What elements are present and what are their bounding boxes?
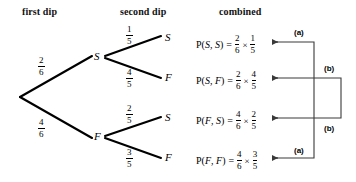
combined-fraction-second: 1 5 <box>250 34 255 55</box>
branch-F-to-FS <box>105 117 161 136</box>
combined-fraction-second: 4 5 <box>252 70 257 91</box>
node-label-first-S: S <box>94 51 100 62</box>
fraction-denominator: 5 <box>252 122 257 131</box>
fraction-denominator: 5 <box>126 80 133 89</box>
fraction-numerator: 2 <box>252 110 257 119</box>
node-label-first-F: F <box>94 131 101 142</box>
fraction-numerator: 1 <box>250 34 255 43</box>
combined-expression-ss: P(S, S) = 2 6 × 1 5 <box>196 34 255 55</box>
p-prefix: P( <box>196 115 205 126</box>
fraction-numerator: 2 <box>126 104 133 113</box>
annotation-bracket-a <box>272 42 314 158</box>
annotation-bracket-b <box>272 78 341 118</box>
probability-notation: P(S, F) <box>196 75 224 86</box>
combined-expression-ff: P(F, F) = 4 6 × 3 5 <box>196 150 257 171</box>
node-label-second-FS: S <box>165 112 171 123</box>
p-prefix: P( <box>196 75 205 86</box>
fraction-denominator: 5 <box>252 82 257 91</box>
branch-S-to-SF <box>105 58 161 78</box>
p-prefix: P( <box>196 155 205 166</box>
probability-tree-diagram: first dip second dip combined <box>0 0 356 182</box>
combined-expression-sf: P(S, F) = 2 6 × 4 5 <box>196 70 256 91</box>
fraction-denominator: 5 <box>250 46 255 55</box>
annotation-label-b-top: (b) <box>324 64 334 73</box>
branch-prob-second-SS: 1 5 <box>126 25 133 46</box>
p-prefix: P( <box>196 39 205 50</box>
annotation-label-a-top: (a) <box>294 28 304 37</box>
node-label-second-SS: S <box>165 32 171 43</box>
equals-sign: = <box>223 39 235 50</box>
annotation-label-b-bottom: (b) <box>324 124 334 133</box>
branch-prob-second-SF: 4 5 <box>126 68 133 89</box>
fraction-numerator: 1 <box>126 25 133 34</box>
fraction-numerator: 3 <box>126 148 133 157</box>
branch-S-to-SS <box>105 36 161 56</box>
branch-root-to-F <box>20 97 92 138</box>
fraction-numerator: 2 <box>38 56 45 65</box>
combined-expression-fs: P(F, S) = 4 6 × 2 5 <box>196 110 256 131</box>
probability-notation: P(F, S) <box>196 115 224 126</box>
annotation-label-a-bottom: (a) <box>294 146 304 155</box>
fraction-denominator: 5 <box>126 160 133 169</box>
branch-root-to-S <box>20 56 92 97</box>
multiply-sign: × <box>242 156 253 166</box>
fraction-numerator: 4 <box>252 70 257 79</box>
fraction-denominator: 6 <box>38 68 45 77</box>
probability-notation: P(F, F) <box>196 155 225 166</box>
equals-sign: = <box>224 75 236 86</box>
equals-sign: = <box>224 115 236 126</box>
multiply-sign: × <box>239 40 250 50</box>
combined-fraction-second: 3 5 <box>253 150 258 171</box>
node-label-second-SF: F <box>165 72 172 83</box>
combined-fraction-second: 2 5 <box>252 110 257 131</box>
branch-prob-second-FS: 2 5 <box>126 104 133 125</box>
probability-notation: P(S, S) <box>196 39 223 50</box>
multiply-sign: × <box>241 76 252 86</box>
branch-prob-first-F: 4 6 <box>38 118 45 139</box>
fraction-numerator: 3 <box>253 150 258 159</box>
fraction-numerator: 4 <box>38 118 45 127</box>
fraction-denominator: 5 <box>126 116 133 125</box>
multiply-sign: × <box>241 116 252 126</box>
branch-prob-first-S: 2 6 <box>38 56 45 77</box>
fraction-denominator: 5 <box>253 162 258 171</box>
node-label-second-FF: F <box>165 152 172 163</box>
branch-prob-second-FF: 3 5 <box>126 148 133 169</box>
fraction-denominator: 5 <box>126 37 133 46</box>
equals-sign: = <box>225 155 237 166</box>
fraction-denominator: 6 <box>38 130 45 139</box>
branch-F-to-FF <box>105 138 161 158</box>
fraction-numerator: 4 <box>126 68 133 77</box>
